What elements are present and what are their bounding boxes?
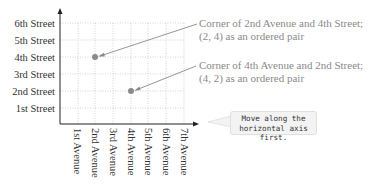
avenue-label-2: 2nd Avenue — [89, 128, 101, 178]
annotation-point1: Corner of 2nd Avenue and 4th Street; (2,… — [199, 17, 363, 43]
street-label-6: 6th Street — [0, 18, 55, 30]
street-label-4: 4th Street — [0, 52, 55, 64]
x-axis — [60, 122, 199, 127]
avenue-label-1: 1st Avenue — [71, 128, 83, 174]
callout-line1: Move along the — [231, 114, 316, 124]
annotation-point1-line1: Corner of 2nd Avenue and 4th Street; — [199, 17, 363, 30]
data-point-4-2 — [128, 88, 134, 94]
avenue-label-6: 6th Avenue — [160, 128, 172, 175]
grid-lines — [60, 23, 184, 124]
avenue-label-5: 5th Avenue — [142, 128, 154, 175]
leader-line-point2 — [134, 66, 196, 91]
annotation-point2: Corner of 4th Avenue and 2nd Street; (4,… — [199, 59, 363, 85]
annotation-point2-line1: Corner of 4th Avenue and 2nd Street; — [199, 59, 363, 72]
annotation-point1-line2: (2, 4) as an ordered pair — [199, 30, 363, 43]
data-point-2-4 — [92, 54, 98, 60]
callout-line2: horizontal axis first. — [231, 124, 316, 143]
y-axis-arrow-icon — [58, 8, 63, 14]
x-axis-arrow-icon — [193, 122, 199, 127]
street-label-1: 1st Street — [0, 103, 55, 115]
street-label-5: 5th Street — [0, 35, 55, 47]
callout-box: Move along the horizontal axis first. — [230, 111, 317, 135]
avenue-label-7: 7th Avenue — [178, 128, 190, 175]
street-label-2: 2nd Street — [0, 86, 55, 98]
coordinate-diagram: 6th Street 5th Street 4th Street 3rd Str… — [0, 0, 392, 187]
street-label-3: 3rd Street — [0, 69, 55, 81]
avenue-label-3: 3rd Avenue — [107, 128, 119, 176]
callout-pointer — [208, 116, 231, 127]
annotation-point2-line2: (4, 2) as an ordered pair — [199, 72, 363, 85]
y-axis — [58, 8, 63, 124]
avenue-label-4: 4th Avenue — [125, 128, 137, 175]
